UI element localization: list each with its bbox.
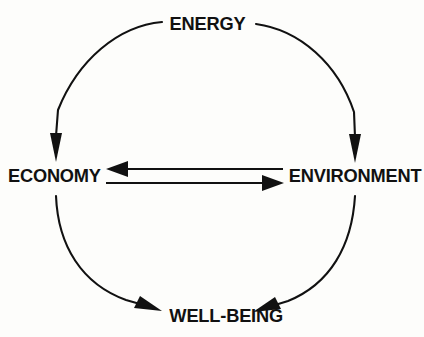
cycle-diagram: ENERGY ECONOMY ENVIRONMENT WELL-BEING bbox=[0, 0, 424, 337]
arrowhead-energy-to-environment bbox=[349, 134, 361, 163]
arc-energy-to-environment bbox=[256, 24, 355, 137]
node-label-environment: ENVIRONMENT bbox=[289, 166, 422, 185]
node-label-economy: ECONOMY bbox=[8, 166, 101, 185]
arc-energy-to-economy bbox=[56, 22, 162, 136]
arrowhead-economy-to-environment bbox=[262, 175, 284, 191]
arrowhead-environment-to-economy bbox=[106, 161, 128, 177]
arc-economy-to-wellbeing bbox=[56, 196, 140, 304]
node-label-wellbeing: WELL-BEING bbox=[169, 306, 283, 325]
arc-environment-to-wellbeing bbox=[275, 196, 355, 305]
node-label-energy: ENERGY bbox=[170, 14, 246, 33]
arrowhead-energy-to-economy bbox=[50, 133, 62, 162]
arrowhead-economy-to-wellbeing bbox=[134, 296, 162, 311]
